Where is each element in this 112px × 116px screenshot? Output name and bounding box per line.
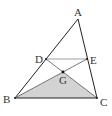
- point-c: [96, 97, 98, 99]
- point-b: [14, 97, 16, 99]
- point-g: [62, 71, 65, 74]
- label-a: A: [74, 6, 82, 18]
- label-c: C: [100, 96, 107, 108]
- point-d: [45, 58, 47, 60]
- triangle-diagram: A D E G B C: [0, 0, 112, 116]
- label-g: G: [59, 74, 67, 86]
- label-d: D: [35, 53, 43, 65]
- label-e: E: [90, 54, 97, 66]
- point-e: [86, 58, 88, 60]
- label-b: B: [3, 93, 10, 105]
